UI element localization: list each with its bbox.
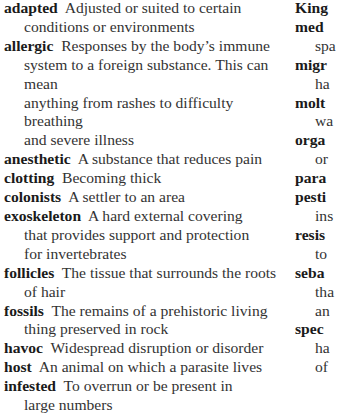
glossary-term: fossils — [4, 302, 44, 319]
glossary-term: para — [295, 169, 326, 186]
glossary-definition: A settler to an area — [68, 188, 185, 205]
glossary-term: anesthetic — [4, 150, 71, 167]
glossary-entry-resis: resis to — [295, 226, 345, 264]
glossary-entry-med: med spa — [295, 18, 345, 56]
glossary-term: colonists — [4, 188, 61, 205]
glossary-definition-continued: ha — [295, 75, 345, 94]
glossary-definition: The remains of a prehistoric living — [51, 302, 267, 319]
glossary-term: havoc — [4, 339, 43, 356]
glossary-definition-continued: system to a foreign substance. This can … — [4, 56, 294, 94]
glossary-term: King — [295, 0, 328, 16]
glossary-definition-continued: to — [295, 245, 345, 264]
glossary-definition-continued: or — [295, 150, 345, 169]
glossary-definition-continued: tha — [295, 283, 345, 302]
glossary-term: med — [295, 18, 324, 35]
glossary-entry-infested: infested To overrun or be present in lar… — [4, 377, 294, 415]
glossary-term: orga — [295, 131, 325, 148]
glossary-entry-colonists: colonists A settler to an area — [4, 188, 294, 207]
glossary-definition: Responses by the body’s immune — [61, 37, 270, 54]
glossary-definition: To overrun or be present in — [64, 377, 233, 394]
glossary-entry-orga: orga or — [295, 131, 345, 169]
glossary-term: infested — [4, 377, 56, 394]
glossary-term: clotting — [4, 169, 54, 186]
glossary-term: adapted — [4, 0, 58, 16]
glossary-term: molt — [295, 94, 325, 111]
glossary-right-column: King med spa migr ha molt wa orga or par… — [295, 0, 345, 377]
glossary-definition-continued: anything from rashes to difficulty breat… — [4, 94, 294, 132]
glossary-term: follicles — [4, 264, 54, 281]
glossary-entry-clotting: clotting Becoming thick — [4, 169, 294, 188]
glossary-definition-continued: wa — [295, 112, 345, 131]
glossary-entry-adapted: adapted Adjusted or suited to certain co… — [4, 0, 294, 37]
glossary-entry-anesthetic: anesthetic A substance that reduces pain — [4, 150, 294, 169]
glossary-entry-para: para — [295, 169, 345, 188]
glossary-entry-follicles: follicles The tissue that surrounds the … — [4, 264, 294, 302]
glossary-entry-exoskeleton: exoskeleton A hard external covering tha… — [4, 207, 294, 264]
glossary-entry-migr: migr ha — [295, 56, 345, 94]
glossary-definition-continued: of — [295, 358, 345, 377]
glossary-term: allergic — [4, 37, 53, 54]
glossary-entry-allergic: allergic Responses by the body’s immune … — [4, 37, 294, 150]
glossary-definition: Becoming thick — [62, 169, 161, 186]
glossary-definition: The tissue that surrounds the roots — [62, 264, 276, 281]
glossary-term: exoskeleton — [4, 207, 81, 224]
glossary-entry-pesti: pesti ins — [295, 188, 345, 226]
glossary-definition: An animal on which a parasite lives — [39, 358, 262, 375]
glossary-left-column: adapted Adjusted or suited to certain co… — [4, 0, 294, 415]
glossary-definition-continued: ins — [295, 207, 345, 226]
glossary-definition-continued: for invertebrates — [4, 245, 294, 264]
glossary-definition-continued: ha — [295, 339, 345, 358]
glossary-entry-seba: seba tha an — [295, 264, 345, 321]
glossary-entry-havoc: havoc Widespread disruption or disorder — [4, 339, 294, 358]
glossary-definition-continued: an — [295, 302, 345, 321]
glossary-definition-continued: that provides support and protection — [4, 226, 294, 245]
glossary-definition-continued: and severe illness — [4, 131, 294, 150]
glossary-definition: A hard external covering — [88, 207, 243, 224]
glossary-entry-spec: spec ha of — [295, 320, 345, 377]
glossary-term: spec — [295, 320, 324, 337]
glossary-definition-continued: thing preserved in rock — [4, 320, 294, 339]
glossary-term: pesti — [295, 188, 326, 205]
glossary-term: resis — [295, 226, 325, 243]
glossary-definition-continued: of hair — [4, 283, 294, 302]
glossary-entry-molt: molt wa — [295, 94, 345, 132]
glossary-entry-king: King — [295, 0, 345, 18]
glossary-term: migr — [295, 56, 327, 73]
glossary-term: seba — [295, 264, 324, 281]
glossary-definition: Adjusted or suited to certain — [65, 0, 242, 16]
glossary-definition-continued: spa — [295, 37, 345, 56]
glossary-definition: Widespread disruption or disorder — [51, 339, 264, 356]
glossary-definition-continued: large numbers — [4, 396, 294, 415]
glossary-definition: A substance that reduces pain — [78, 150, 262, 167]
glossary-entry-fossils: fossils The remains of a prehistoric liv… — [4, 302, 294, 340]
glossary-definition-continued: conditions or environments — [4, 18, 294, 37]
glossary-term: host — [4, 358, 32, 375]
glossary-entry-host: host An animal on which a parasite lives — [4, 358, 294, 377]
